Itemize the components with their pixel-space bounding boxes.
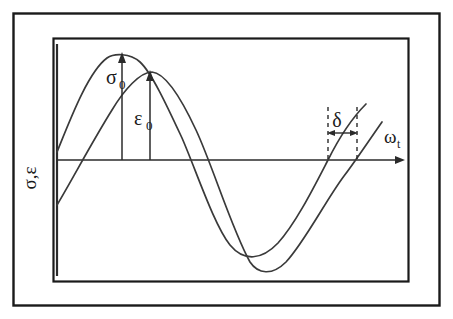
y-axis-label: σ,ε: [19, 167, 40, 190]
x-axis-label: ω: [384, 126, 397, 147]
phase-lag-label: δ: [332, 109, 341, 131]
stress-amplitude-label: σ: [106, 66, 117, 88]
strain-amplitude-subscript: 0: [146, 118, 153, 133]
stress-strain-phase-lag-diagram: σ,ε ω t σ 0 ε 0 δ: [0, 0, 453, 319]
figure-container: σ,ε ω t σ 0 ε 0 δ: [0, 0, 453, 319]
strain-amplitude-label: ε: [134, 107, 142, 129]
stress-amplitude-subscript: 0: [119, 77, 126, 92]
